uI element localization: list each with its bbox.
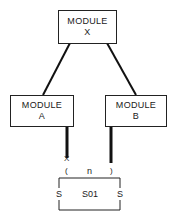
interface-label-n: n: [87, 166, 92, 176]
end-mark-x: X: [64, 154, 69, 164]
module-a-label-line1: MODULE: [22, 100, 62, 111]
left-bracket: (: [65, 166, 68, 176]
link-x-to-a: [43, 43, 70, 95]
module-b-label-line2: B: [133, 111, 139, 122]
store-name[interactable]: S01: [82, 189, 98, 199]
module-x-label-line1: MODULE: [67, 16, 107, 27]
module-x-label-line2: X: [84, 27, 90, 38]
right-bracket: ): [110, 166, 113, 176]
store-right-marker: S: [117, 189, 123, 199]
module-a-box[interactable]: MODULE A: [10, 95, 74, 127]
module-a-label-line2: A: [39, 111, 45, 122]
store-left-marker: S: [56, 189, 62, 199]
link-x-to-b: [107, 43, 136, 95]
module-b-box[interactable]: MODULE B: [105, 95, 167, 127]
module-x-box[interactable]: MODULE X: [58, 10, 117, 44]
module-b-label-line1: MODULE: [116, 100, 156, 111]
